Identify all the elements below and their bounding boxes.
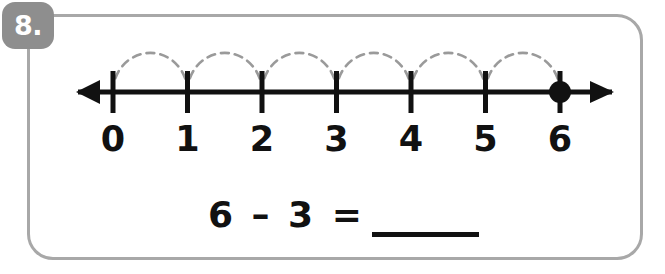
tick-label: 5: [466, 118, 506, 160]
tick-label: 4: [391, 118, 431, 160]
answer-blank-line[interactable]: [372, 232, 479, 237]
tick-label: 6: [540, 118, 580, 160]
tick-label: 1: [168, 118, 208, 160]
worksheet-problem: 8. 0123456 6 – 3 =: [0, 0, 665, 274]
equation-expression: 6 – 3 =: [208, 192, 365, 238]
equation-row: 6 – 3 =: [0, 192, 665, 254]
problem-number-badge: 8.: [2, 2, 54, 49]
tick-label-group: 0123456: [0, 118, 665, 162]
tick-label: 2: [242, 118, 282, 160]
tick-label: 3: [317, 118, 357, 160]
tick-label: 0: [93, 118, 133, 160]
